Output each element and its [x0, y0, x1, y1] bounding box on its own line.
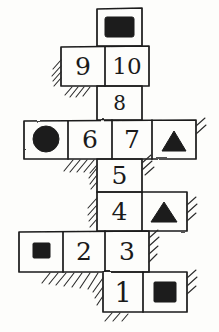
triangle-icon-lower: [151, 202, 177, 222]
cell-label-1: 1: [103, 272, 143, 312]
cell-label-4: 4: [97, 192, 142, 231]
cell-label-7: 7: [112, 120, 152, 159]
square-icon-right: [154, 282, 176, 302]
cell-label-5: 5: [97, 159, 142, 192]
cell-label-2: 2: [63, 231, 105, 272]
cell-label-8: 8: [97, 86, 142, 120]
square-icon-left: [33, 243, 50, 258]
cell-label-10: 10: [105, 46, 149, 86]
cell-label-3: 3: [105, 231, 149, 272]
circle-icon: [33, 126, 59, 152]
rectangle-icon: [105, 17, 134, 37]
hopscotch-diagram: 9 10 8 6 7 5 4 2 3 1: [0, 0, 219, 332]
cell-label-6: 6: [68, 120, 112, 159]
triangle-icon-upper: [162, 131, 186, 151]
cell-label-9: 9: [61, 46, 105, 86]
